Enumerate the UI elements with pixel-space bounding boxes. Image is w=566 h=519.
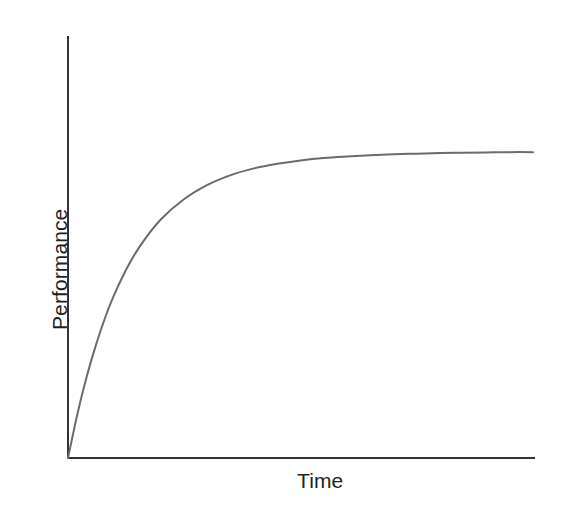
x-axis-label: Time: [297, 469, 343, 493]
chart-plot-area: [0, 0, 566, 519]
learning-curve-chart: Performance Time: [0, 0, 566, 519]
performance-curve: [68, 152, 533, 458]
y-axis-label: Performance: [48, 209, 72, 330]
